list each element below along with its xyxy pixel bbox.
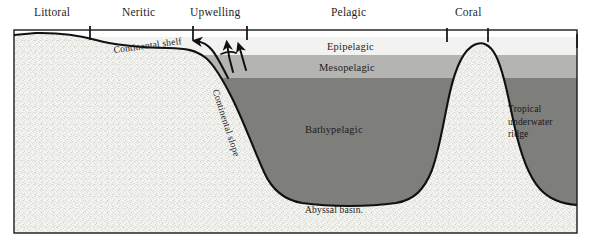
feature-label-abyssal-basin: Abyssal basin. [305,205,363,215]
zone-label-mesopelagic: Mesopelagic [319,62,375,73]
diagram-content [14,33,577,233]
top-label-upwelling: Upwelling [190,6,240,18]
top-label-littoral: Littoral [34,6,70,18]
top-label-neritic: Neritic [122,6,155,18]
zone-label-bathypelagic: Bathypelagic [305,124,363,135]
zone-label-epipelagic: Epipelagic [327,41,374,52]
ocean-zones-diagram: Littoral Neritic Upwelling Pelagic Coral… [0,0,590,250]
top-label-pelagic: Pelagic [331,6,366,18]
feature-label-tropical-underwater-ridge: Tropical underwater ridge [508,103,553,141]
ocean-cross-section-svg [0,0,590,250]
top-label-coral: Coral [455,6,482,18]
